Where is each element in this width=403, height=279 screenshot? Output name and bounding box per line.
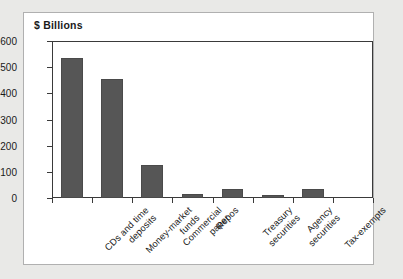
- y-axis-tick-label: 600: [0, 36, 17, 47]
- x-axis-tick-label: Tax-exempts: [343, 205, 389, 251]
- y-axis-tick-label: 300: [0, 114, 17, 125]
- x-axis-tick-mark: [373, 198, 374, 203]
- y-axis-tick-label: 500: [0, 62, 17, 73]
- bar: [141, 165, 163, 198]
- y-axis-tick-label: 0: [0, 193, 17, 204]
- bar: [101, 79, 123, 198]
- y-axis-tick-label: 400: [0, 88, 17, 99]
- x-axis-tick-label: Treasurysecurities: [258, 205, 302, 249]
- x-axis-tick-mark: [333, 198, 334, 203]
- plot-area: [52, 41, 373, 198]
- x-axis-tick-mark: [213, 198, 214, 203]
- x-axis-tick-mark: [253, 198, 254, 203]
- bar: [262, 195, 284, 198]
- chart-page: $ Billions 6005004003002001000 CDs and t…: [0, 0, 403, 279]
- y-axis-tick-label: 100: [0, 166, 17, 177]
- x-axis-tick-mark: [293, 198, 294, 203]
- x-axis-tick-label: Agencysecurities: [298, 205, 342, 249]
- x-axis-tick-mark: [92, 198, 93, 203]
- bar: [61, 58, 83, 198]
- x-axis-tick-mark: [172, 198, 173, 203]
- x-axis-tick-mark: [52, 198, 53, 203]
- bar: [302, 189, 324, 198]
- bar: [222, 189, 244, 198]
- x-axis-tick-mark: [132, 198, 133, 203]
- chart-panel: $ Billions 6005004003002001000 CDs and t…: [23, 12, 374, 265]
- bar: [182, 194, 204, 198]
- chart-title: $ Billions: [34, 19, 83, 31]
- y-axis-tick-label: 200: [0, 140, 17, 151]
